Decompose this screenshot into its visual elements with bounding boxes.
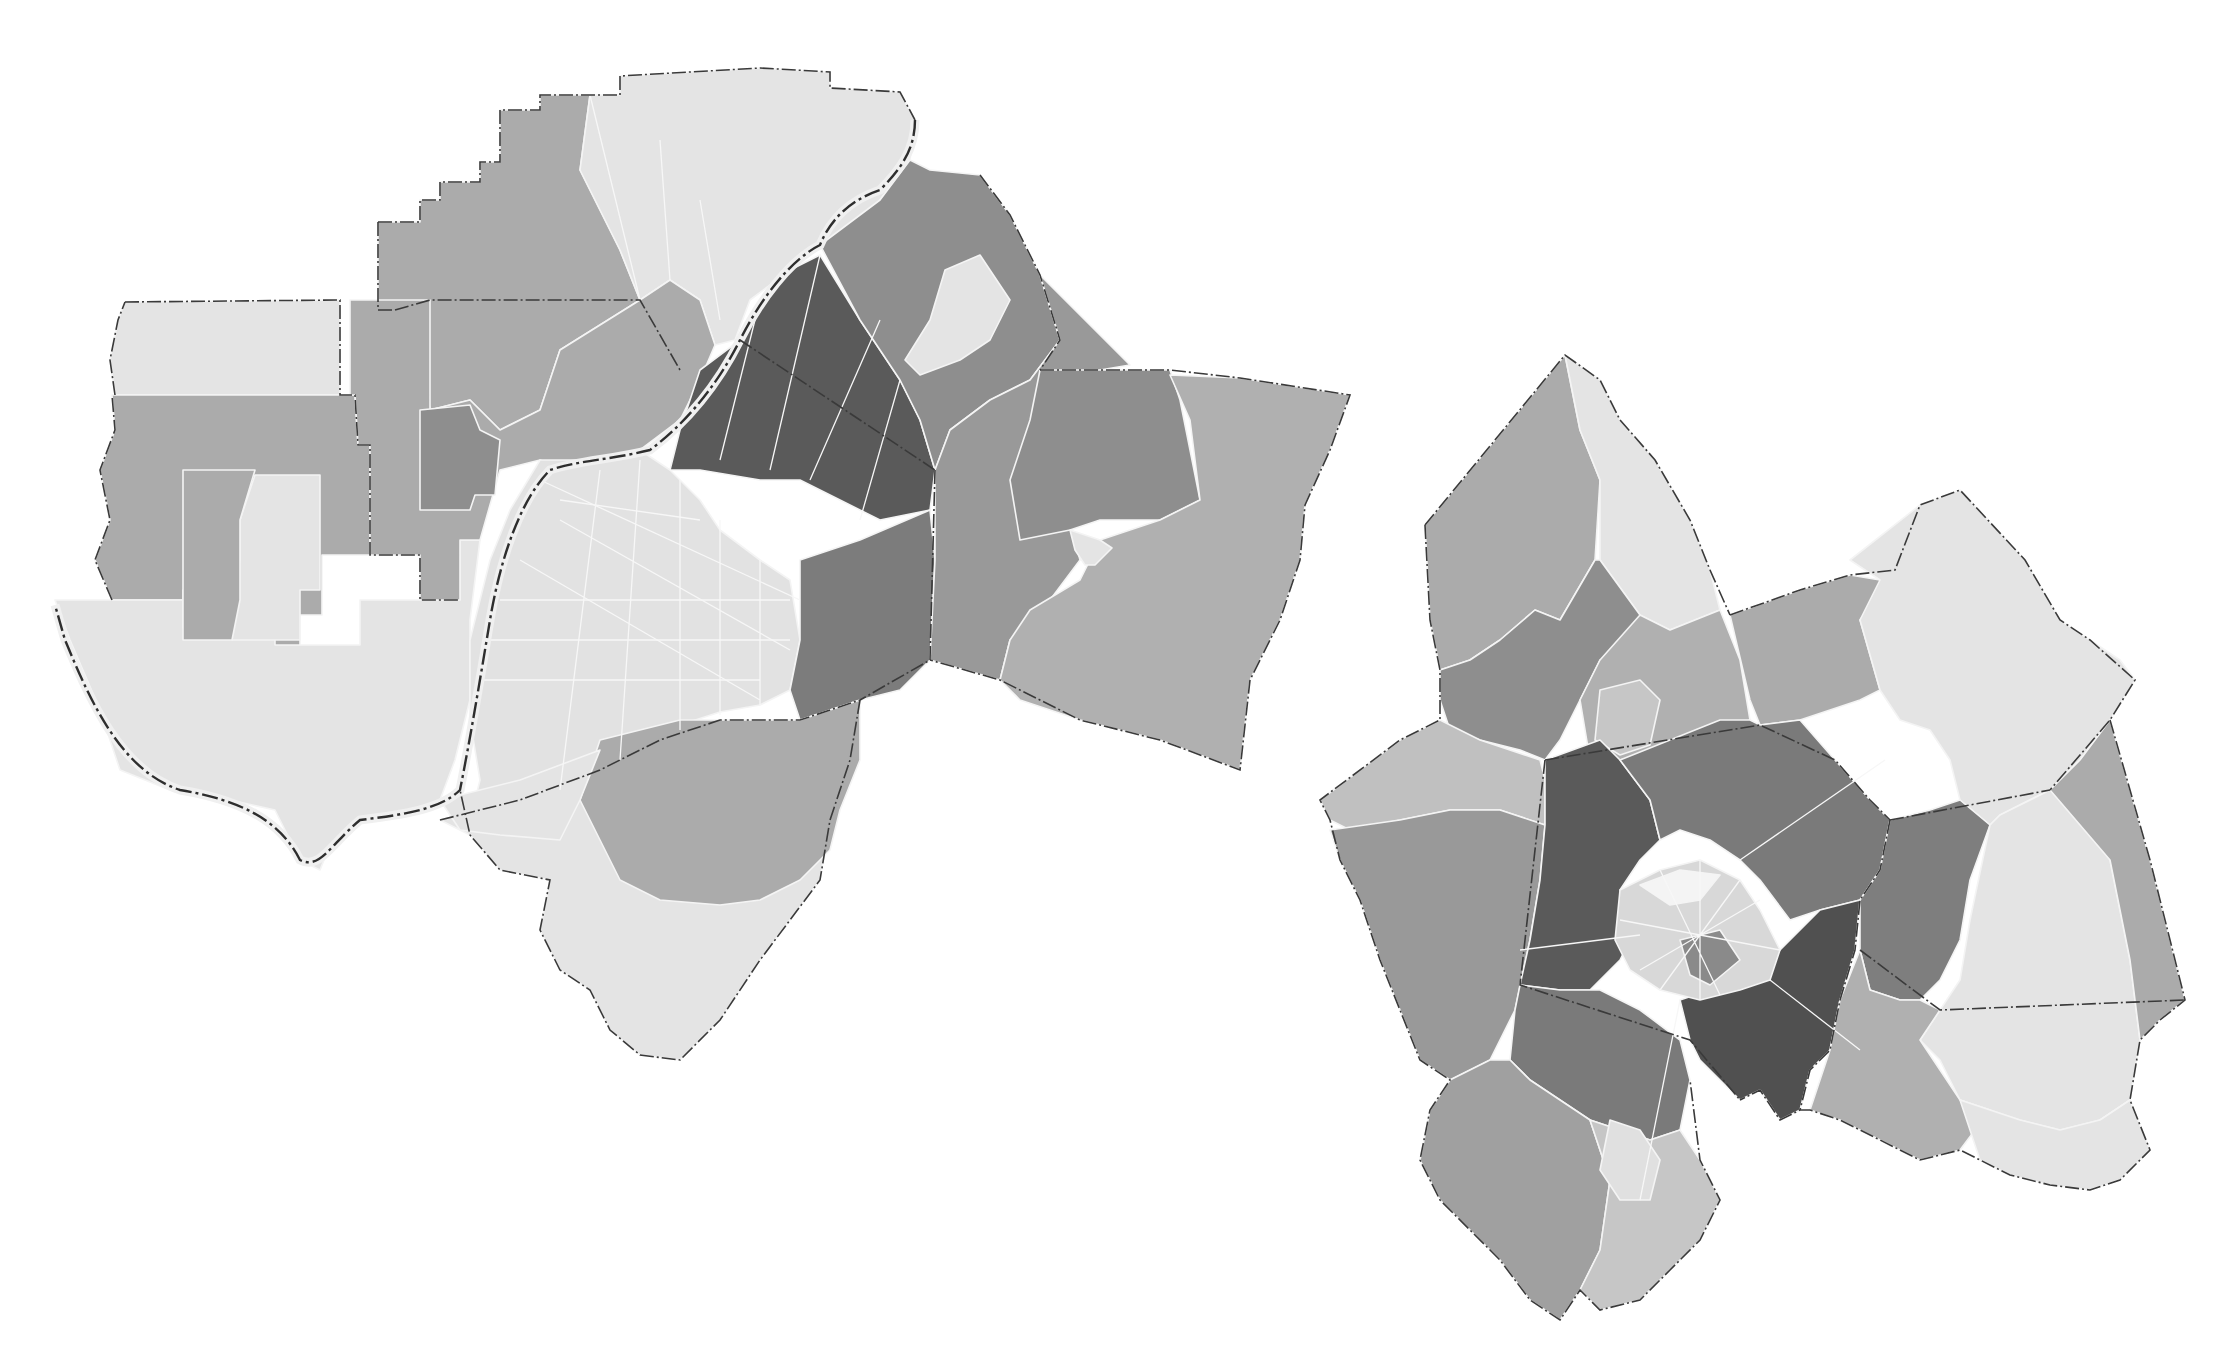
region-ky-southeast-dark [790, 510, 935, 720]
region-ind-nw-top [110, 300, 340, 395]
lexington-map [1320, 355, 2185, 1320]
louisville-map [55, 68, 1350, 1060]
map-canvas [0, 0, 2225, 1356]
